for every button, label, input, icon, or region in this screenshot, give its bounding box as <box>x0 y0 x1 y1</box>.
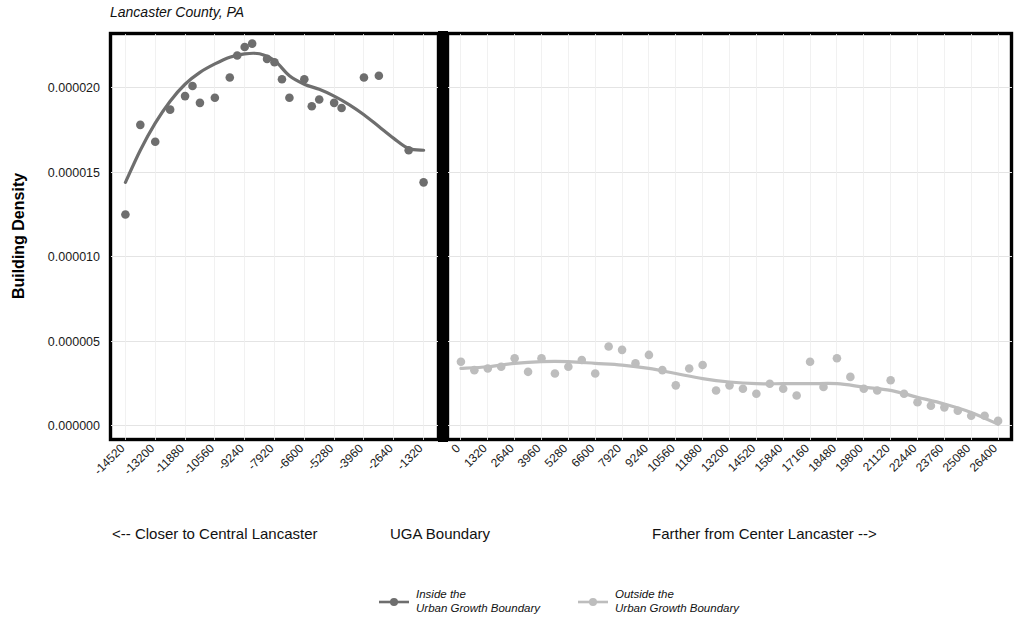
panel-outside-uga <box>448 34 1012 440</box>
data-point <box>819 383 828 392</box>
data-point <box>765 379 774 388</box>
y-tick-label: 0.000005 <box>48 335 100 349</box>
data-point <box>330 99 339 108</box>
data-point <box>360 73 369 82</box>
data-point <box>300 75 309 84</box>
data-point <box>188 82 197 91</box>
data-point <box>285 93 294 102</box>
data-point <box>537 354 546 363</box>
data-point <box>725 381 734 390</box>
data-point <box>181 92 190 101</box>
data-point <box>846 373 855 382</box>
data-point <box>886 376 895 385</box>
data-point <box>419 178 428 187</box>
data-point <box>457 357 466 366</box>
data-point <box>927 401 936 410</box>
data-point <box>913 398 922 407</box>
data-point <box>752 390 761 399</box>
data-point <box>591 369 600 378</box>
data-point <box>136 121 145 130</box>
data-point <box>211 93 220 102</box>
data-point <box>671 381 680 390</box>
data-point <box>225 73 234 82</box>
data-point <box>980 412 989 421</box>
y-tick-label: 0.000015 <box>48 166 100 180</box>
legend-label-inside-line1: Inside the <box>416 588 466 600</box>
data-point <box>618 346 627 355</box>
legend-label-outside-line2: Urban Growth Boundary <box>615 602 740 614</box>
data-point <box>196 99 205 108</box>
data-point <box>166 105 175 114</box>
legend-label-inside-line2: Urban Growth Boundary <box>416 602 541 614</box>
data-point <box>564 362 573 371</box>
data-point <box>470 366 479 375</box>
caption-farther-from-center: Farther from Center Lancaster --> <box>652 525 877 542</box>
data-point <box>307 102 316 111</box>
data-point <box>604 342 613 351</box>
data-point <box>337 104 346 113</box>
data-point <box>240 43 249 52</box>
data-point <box>631 359 640 368</box>
y-axis-title: Building Density <box>10 173 27 299</box>
data-point <box>270 58 279 67</box>
data-point <box>685 364 694 373</box>
legend-marker-outside <box>589 598 597 606</box>
data-point <box>483 364 492 373</box>
data-point <box>263 55 272 64</box>
legend-label-outside-line1: Outside the <box>615 588 674 600</box>
data-point <box>233 51 242 60</box>
data-point <box>404 146 413 155</box>
data-point <box>900 390 909 399</box>
data-point <box>739 384 748 393</box>
panel-inside-uga <box>111 34 439 440</box>
data-point <box>712 386 721 395</box>
data-point <box>524 368 533 377</box>
data-point <box>151 137 160 146</box>
legend-marker-inside <box>390 598 398 606</box>
data-point <box>953 406 962 415</box>
data-point <box>315 95 324 104</box>
data-point <box>806 357 815 366</box>
caption-uga-boundary: UGA Boundary <box>390 525 491 542</box>
chart-title: Lancaster County, PA <box>110 4 244 20</box>
data-point <box>698 361 707 370</box>
data-point <box>792 391 801 400</box>
data-point <box>577 356 586 365</box>
data-point <box>994 417 1003 426</box>
data-point <box>510 354 519 363</box>
data-point <box>375 71 384 80</box>
data-point <box>658 366 667 375</box>
building-density-chart: Lancaster County, PA Building Density 0.… <box>0 0 1035 632</box>
data-point <box>940 403 949 412</box>
data-point <box>859 384 868 393</box>
data-point <box>497 362 506 371</box>
data-point <box>645 351 654 360</box>
y-tick-label: 0.000000 <box>48 419 100 433</box>
caption-closer-to-center: <-- Closer to Central Lancaster <box>112 525 318 542</box>
data-point <box>873 386 882 395</box>
data-point <box>121 210 130 219</box>
data-point <box>833 354 842 363</box>
data-point <box>779 384 788 393</box>
y-tick-label: 0.000010 <box>48 250 100 264</box>
data-point <box>248 39 257 48</box>
data-point <box>551 369 560 378</box>
y-tick-label: 0.000020 <box>48 81 100 95</box>
data-point <box>967 412 976 421</box>
data-point <box>278 75 287 84</box>
